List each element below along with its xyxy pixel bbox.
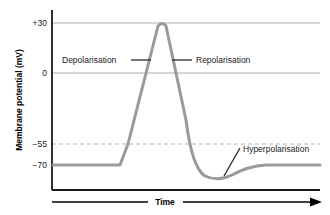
y-tick-label-minus55: −55: [33, 139, 48, 149]
y-tick-label-minus70: −70: [33, 160, 48, 170]
repolarisation-label: Repolarisation: [196, 55, 251, 65]
depolarisation-label: Depolarisation: [62, 55, 117, 65]
figure-background: [0, 0, 330, 215]
hyperpolarisation-label: Hyperpolarisation: [243, 144, 309, 154]
y-tick-label-plus30: +30: [33, 18, 48, 28]
y-tick-label-zero: 0: [42, 68, 47, 78]
action-potential-diagram: +30 0 −55 −70 Membrane potential (mV) De…: [0, 0, 330, 215]
y-axis-title: Membrane potential (mV): [14, 49, 24, 151]
x-axis-label-time: Time: [155, 197, 175, 207]
